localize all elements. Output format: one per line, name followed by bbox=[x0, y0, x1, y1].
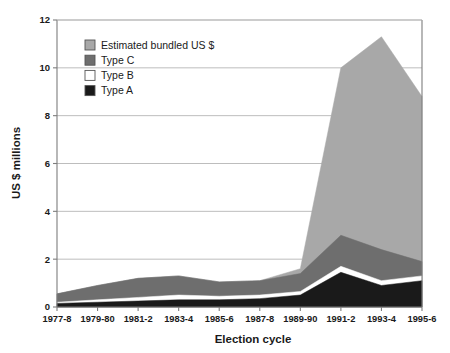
y-axis-title: US $ millions bbox=[10, 127, 22, 199]
x-tick-label: 1985-6 bbox=[205, 314, 234, 324]
x-tick-label: 1977-8 bbox=[43, 314, 72, 324]
x-tick-label: 1979-80 bbox=[80, 314, 114, 324]
x-tick-label: 1987-8 bbox=[245, 314, 274, 324]
x-tick-label: 1989-90 bbox=[283, 314, 317, 324]
legend-label: Estimated bundled US $ bbox=[101, 39, 214, 51]
legend-swatch bbox=[85, 86, 95, 96]
y-tick-label: 0 bbox=[45, 301, 50, 312]
legend-swatch bbox=[85, 40, 95, 50]
y-tick-label: 2 bbox=[45, 254, 50, 265]
legend-swatch bbox=[85, 55, 95, 65]
chart-container: 024681012 1977-81979-801981-21983-41985-… bbox=[0, 0, 450, 353]
x-tick-label: 1993-4 bbox=[367, 314, 397, 324]
legend-label: Type C bbox=[101, 54, 135, 66]
stacked-area-chart: 024681012 1977-81979-801981-21983-41985-… bbox=[0, 0, 450, 353]
x-tick-label: 1991-2 bbox=[326, 314, 355, 324]
y-tick-label: 4 bbox=[45, 206, 51, 217]
x-tick-label: 1983-4 bbox=[164, 314, 194, 324]
y-tick-label: 6 bbox=[45, 158, 50, 169]
x-axis-title: Election cycle bbox=[215, 333, 292, 345]
x-tick-label: 1981-2 bbox=[124, 314, 153, 324]
legend-label: Type A bbox=[101, 84, 133, 96]
legend-label: Type B bbox=[101, 69, 134, 81]
y-tick-label: 8 bbox=[45, 110, 50, 121]
y-tick-label: 10 bbox=[39, 62, 50, 73]
legend-swatch bbox=[85, 70, 95, 80]
x-tick-label: 1995-6 bbox=[408, 314, 437, 324]
y-tick-label: 12 bbox=[39, 14, 50, 25]
